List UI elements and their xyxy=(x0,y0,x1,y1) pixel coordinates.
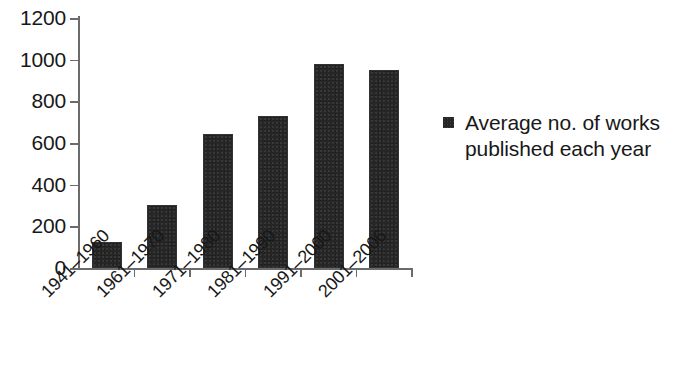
chart-legend: Average no. of works published each year xyxy=(443,110,660,162)
y-axis-tick-label: 200 xyxy=(0,215,66,236)
legend-label-line-1: Average no. of works xyxy=(465,110,660,136)
y-axis-tick-mark xyxy=(70,101,78,103)
y-axis-tick-labels: 020040060080010001200 xyxy=(0,0,66,380)
legend-label-line-2: published each year xyxy=(465,136,660,162)
y-axis-tick-label: 800 xyxy=(0,90,66,111)
x-axis-tick-mark xyxy=(411,268,413,277)
legend-label: Average no. of works published each year xyxy=(465,110,660,162)
y-axis-tick-label: 1000 xyxy=(0,49,66,70)
bar-chart-figure: 020040060080010001200 1941–19601961–1970… xyxy=(0,0,692,380)
y-axis-tick-label: 600 xyxy=(0,132,66,153)
y-axis-tick-label: 1200 xyxy=(0,7,66,28)
y-axis-tick-mark xyxy=(70,226,78,228)
y-axis-tick-mark xyxy=(70,18,78,20)
y-axis-tick-label: 400 xyxy=(0,174,66,195)
legend-swatch-icon xyxy=(443,117,454,128)
plot-area xyxy=(78,16,411,268)
y-axis-tick-mark xyxy=(70,143,78,145)
y-axis-tick-mark xyxy=(70,60,78,62)
y-axis-tick-mark xyxy=(70,185,78,187)
